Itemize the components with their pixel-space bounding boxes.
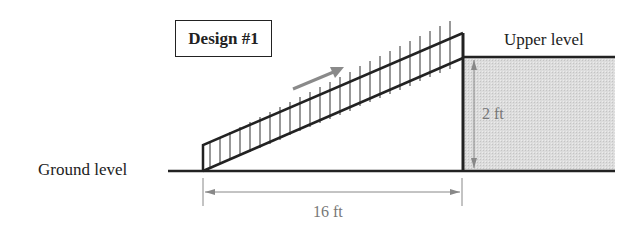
direction-arrow-icon [293, 67, 344, 89]
upper-level-block [463, 33, 615, 171]
ground-level-label: Ground level [38, 160, 127, 180]
length-dimension-label: 16 ft [313, 203, 343, 221]
design-title: Design #1 [175, 20, 272, 57]
upper-level-label: Upper level [504, 30, 584, 50]
height-dimension-label: 2 ft [482, 105, 504, 123]
ramp-diagram: Design #1 Upper level Ground level 2 ft … [0, 0, 644, 231]
length-dimension [203, 178, 462, 206]
